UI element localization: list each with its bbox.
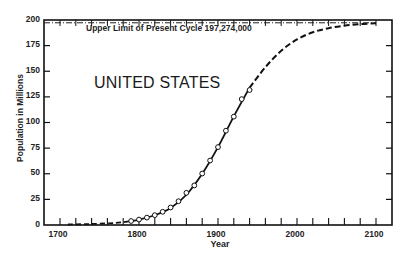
y-tick-label: 175 bbox=[10, 39, 40, 49]
x-tick-label: 1800 bbox=[117, 229, 157, 239]
upper-limit-annotation: Upper Limit of Present Cycle 197,274,000 bbox=[86, 23, 252, 33]
census-points bbox=[129, 88, 252, 224]
y-tick-label: 0 bbox=[10, 219, 40, 229]
axis-ticks bbox=[44, 20, 392, 225]
chart-plot bbox=[0, 0, 409, 259]
y-tick-label: 100 bbox=[10, 116, 40, 126]
y-tick-label: 125 bbox=[10, 90, 40, 100]
y-tick-label: 200 bbox=[10, 14, 40, 24]
plot-frame bbox=[44, 20, 392, 225]
x-axis-label: Year bbox=[205, 239, 235, 249]
x-tick-label: 2100 bbox=[354, 229, 394, 239]
x-tick-label: 2000 bbox=[275, 229, 315, 239]
chart-title: UNITED STATES bbox=[94, 74, 220, 92]
y-tick-label: 75 bbox=[10, 142, 40, 152]
y-tick-label: 50 bbox=[10, 167, 40, 177]
x-tick-label: 1900 bbox=[196, 229, 236, 239]
x-tick-label: 1700 bbox=[38, 229, 78, 239]
population-curves bbox=[68, 23, 376, 224]
y-tick-label: 25 bbox=[10, 193, 40, 203]
y-tick-label: 150 bbox=[10, 65, 40, 75]
